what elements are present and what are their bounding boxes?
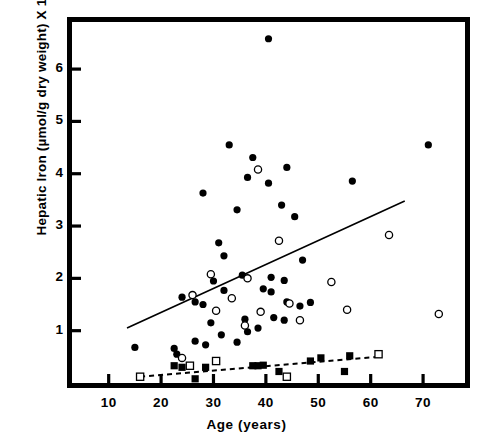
data-point-open-circle — [328, 278, 335, 285]
data-point-open-circle — [241, 322, 248, 329]
x-tick-label-20: 20 — [141, 395, 181, 410]
data-point-filled-circle — [425, 141, 432, 148]
data-point-filled-circle — [281, 317, 288, 324]
data-point-open-circle — [296, 317, 303, 324]
data-point-filled-circle — [291, 213, 298, 220]
data-point-open-circle — [189, 292, 196, 299]
data-point-open-square — [283, 373, 290, 380]
plot-canvas — [0, 0, 493, 447]
y-tick-label-2: 2 — [41, 269, 63, 284]
data-point-filled-circle — [299, 256, 306, 263]
data-point-open-circle — [286, 300, 293, 307]
data-point-filled-circle — [192, 298, 199, 305]
x-tick-label-30: 30 — [193, 395, 233, 410]
data-point-open-square — [137, 373, 144, 380]
y-tick-label-1: 1 — [41, 322, 63, 337]
data-point-open-square — [186, 362, 193, 369]
data-point-open-circle — [435, 310, 442, 317]
data-point-open-circle — [344, 306, 351, 313]
data-point-filled-square — [171, 362, 178, 369]
data-point-filled-circle — [226, 141, 233, 148]
y-tick-label-6: 6 — [41, 60, 63, 75]
y-tick-label-3: 3 — [41, 217, 63, 232]
data-point-open-circle — [275, 237, 282, 244]
data-point-filled-circle — [260, 285, 267, 292]
data-point-filled-circle — [220, 252, 227, 259]
data-point-filled-circle — [349, 177, 356, 184]
data-point-filled-circle — [249, 154, 256, 161]
data-point-filled-circle — [178, 294, 185, 301]
x-axis-title: Age (years) — [0, 417, 493, 432]
data-point-filled-circle — [215, 239, 222, 246]
data-point-filled-circle — [268, 274, 275, 281]
data-point-filled-square — [341, 368, 348, 375]
data-point-filled-circle — [210, 277, 217, 284]
data-point-filled-square — [192, 375, 199, 382]
axis-ticks — [72, 69, 423, 383]
data-point-filled-circle — [202, 341, 209, 348]
data-point-open-square — [375, 351, 382, 358]
y-axis-title: Hepatic Iron (µmol/g dry weight) X 10-2 — [31, 0, 49, 299]
data-point-open-circle — [244, 275, 251, 282]
data-point-open-circle — [178, 354, 185, 361]
data-point-open-circle — [254, 166, 261, 173]
data-point-filled-circle — [281, 277, 288, 284]
data-point-filled-square — [317, 354, 324, 361]
data-point-filled-circle — [192, 338, 199, 345]
data-point-filled-circle — [220, 287, 227, 294]
data-point-open-circle — [385, 231, 392, 238]
data-point-filled-circle — [296, 302, 303, 309]
x-tick-label-10: 10 — [89, 395, 129, 410]
data-point-open-circle — [257, 308, 264, 315]
data-point-open-square — [213, 357, 220, 364]
data-point-filled-square — [307, 357, 314, 364]
data-point-filled-circle — [218, 331, 225, 338]
regression-solid — [127, 201, 405, 328]
data-point-filled-circle — [131, 344, 138, 351]
data-point-filled-square — [178, 364, 185, 371]
data-point-filled-circle — [244, 174, 251, 181]
data-point-filled-circle — [283, 164, 290, 171]
x-tick-label-60: 60 — [351, 395, 391, 410]
data-point-filled-square — [260, 362, 267, 369]
x-tick-label-50: 50 — [298, 395, 338, 410]
data-point-filled-circle — [307, 299, 314, 306]
data-point-filled-circle — [207, 319, 214, 326]
data-point-open-circle — [228, 295, 235, 302]
y-tick-label-4: 4 — [41, 165, 63, 180]
data-point-filled-circle — [268, 288, 275, 295]
data-point-filled-circle — [265, 180, 272, 187]
data-point-filled-circle — [278, 202, 285, 209]
x-tick-label-70: 70 — [403, 395, 443, 410]
data-point-filled-square — [202, 364, 209, 371]
y-tick-label-5: 5 — [41, 112, 63, 127]
data-point-filled-circle — [265, 35, 272, 42]
data-point-open-circle — [207, 271, 214, 278]
x-tick-label-40: 40 — [246, 395, 286, 410]
data-point-filled-square — [275, 368, 282, 375]
data-point-filled-circle — [199, 189, 206, 196]
data-point-filled-circle — [233, 206, 240, 213]
scatter-plot-figure: Hepatic Iron (µmol/g dry weight) X 10-2 … — [0, 0, 493, 447]
data-point-open-circle — [213, 307, 220, 314]
data-point-filled-square — [346, 352, 353, 359]
data-point-filled-circle — [254, 324, 261, 331]
data-point-filled-circle — [233, 339, 240, 346]
data-point-filled-circle — [270, 314, 277, 321]
data-point-filled-circle — [199, 301, 206, 308]
plot-frame — [70, 20, 468, 386]
data-points — [131, 35, 442, 382]
